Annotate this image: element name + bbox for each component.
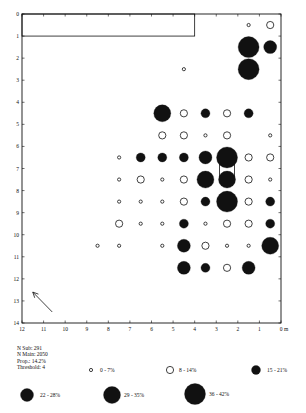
y-tick-label: 12 — [14, 276, 20, 282]
data-point — [217, 191, 238, 212]
data-point — [180, 132, 187, 139]
data-point — [202, 242, 209, 249]
x-tick-label: 0 m — [280, 326, 289, 332]
x-tick-label: 9 — [85, 326, 88, 332]
data-point — [267, 21, 274, 28]
data-point — [267, 154, 274, 161]
plot-frame — [22, 14, 281, 323]
data-point — [158, 153, 167, 162]
data-point — [161, 200, 164, 203]
y-tick-label: 11 — [14, 254, 20, 260]
data-point — [118, 244, 121, 247]
x-tick-label: 4 — [193, 326, 196, 332]
data-point — [238, 37, 259, 58]
data-point — [137, 176, 144, 183]
data-point — [223, 220, 230, 227]
stat-prop: Prop.: 14.2% — [17, 358, 48, 364]
legend-symbol — [252, 366, 261, 375]
data-point — [201, 109, 210, 118]
data-point — [199, 151, 212, 164]
data-point — [96, 244, 99, 247]
legend-label: 36 - 42% — [209, 391, 229, 397]
legend-symbol — [104, 387, 121, 404]
y-tick-label: 3 — [16, 77, 19, 83]
legend-symbols — [21, 366, 261, 405]
y-tick-label: 6 — [16, 143, 19, 149]
data-point — [154, 105, 171, 122]
y-tick-label: 4 — [16, 99, 19, 105]
data-point — [197, 171, 214, 188]
data-point — [177, 261, 190, 274]
data-point — [180, 110, 187, 117]
data-point — [159, 132, 166, 139]
data-point — [180, 176, 187, 183]
north-arrow-icon — [33, 292, 52, 312]
stat-n-main: N Main: 2050 — [17, 351, 48, 357]
data-point — [223, 264, 230, 271]
data-point — [201, 197, 210, 206]
data-point — [242, 261, 255, 274]
data-point — [177, 239, 190, 252]
data-point — [161, 222, 164, 225]
stat-threshold: Threshold: 4 — [17, 364, 48, 370]
data-point — [247, 23, 250, 26]
data-point — [269, 134, 272, 137]
x-tick-label: 10 — [62, 326, 68, 332]
data-point — [245, 176, 252, 183]
data-point — [136, 153, 145, 162]
y-tick-label: 9 — [16, 210, 19, 216]
data-point — [139, 222, 142, 225]
legend-symbol — [185, 384, 206, 405]
y-tick-label: 8 — [16, 188, 19, 194]
x-tick-label: 12 — [19, 326, 25, 332]
legend-label: 15 - 21% — [267, 367, 287, 373]
feature-rectangle — [22, 14, 195, 36]
data-point — [219, 171, 236, 188]
y-tick-label: 0 — [16, 11, 19, 17]
legend-symbol — [21, 389, 34, 402]
y-tick-label: 13 — [14, 298, 20, 304]
data-point — [118, 156, 121, 159]
y-tick-label: 1 — [16, 33, 19, 39]
y-tick-label: 2 — [16, 55, 19, 61]
legend-label: 22 - 28% — [40, 392, 60, 398]
data-point — [204, 134, 207, 137]
data-point — [238, 59, 259, 80]
data-point — [217, 147, 238, 168]
y-tick-label: 5 — [16, 121, 19, 127]
x-tick-label: 1 — [258, 326, 261, 332]
data-point — [264, 41, 277, 54]
y-tick-label: 14 — [14, 320, 20, 326]
legend-symbol — [166, 366, 173, 373]
x-tick-label: 7 — [129, 326, 132, 332]
data-point — [225, 244, 228, 247]
data-point — [204, 222, 207, 225]
data-point — [116, 220, 123, 227]
data-point — [182, 68, 185, 71]
y-tick-label: 7 — [16, 166, 19, 172]
data-point — [269, 178, 272, 181]
data-point — [245, 220, 252, 227]
data-point — [139, 200, 142, 203]
data-point — [161, 244, 164, 247]
data-point — [118, 200, 121, 203]
data-point — [180, 198, 187, 205]
data-point — [247, 244, 250, 247]
x-tick-label: 8 — [107, 326, 110, 332]
x-tick-label: 2 — [236, 326, 239, 332]
legend-symbol — [89, 368, 92, 371]
data-point — [244, 109, 253, 118]
legend-label: 8 - 14% — [179, 367, 196, 373]
data-points — [96, 21, 279, 274]
data-point — [223, 110, 230, 117]
x-tick-label: 3 — [215, 326, 218, 332]
data-point — [223, 132, 230, 139]
x-tick-label: 6 — [150, 326, 153, 332]
data-point — [262, 237, 279, 254]
data-point — [118, 178, 121, 181]
data-point — [266, 197, 275, 206]
data-point — [245, 154, 252, 161]
data-point — [179, 153, 188, 162]
data-point — [245, 198, 252, 205]
data-point — [161, 178, 164, 181]
